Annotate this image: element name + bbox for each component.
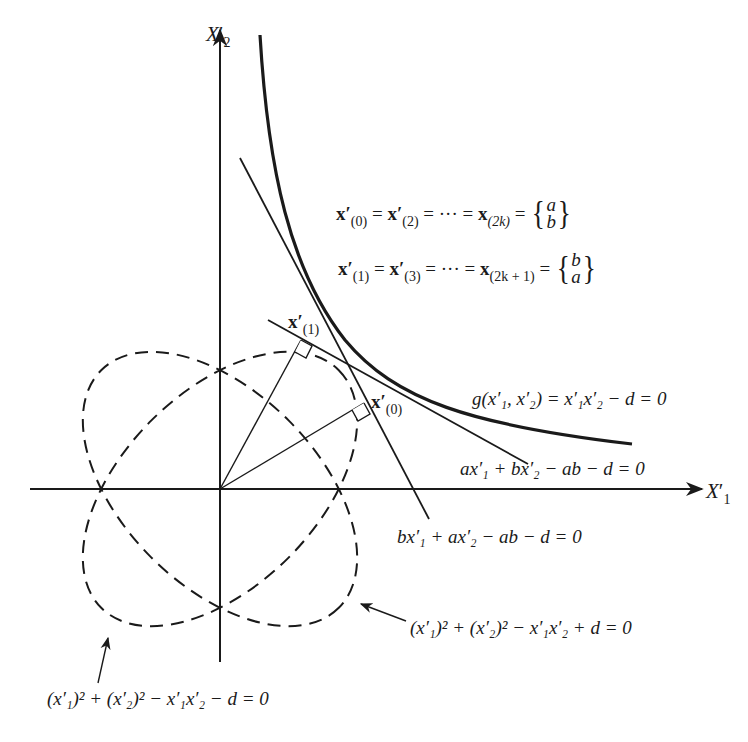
even-sub-3: (2k): [487, 214, 510, 229]
even-term-1: x: [336, 203, 346, 224]
odd-term-1: x: [338, 258, 348, 279]
odd-dots: = ··· =: [425, 258, 475, 279]
even-term-2: x: [387, 203, 397, 224]
x2-axis-label: X′2: [206, 24, 230, 45]
ray-to-x0: [220, 403, 364, 489]
even-equals: =: [515, 203, 526, 224]
x1-axis-label-sub: 1: [723, 492, 730, 507]
point-x0-sub: (0): [386, 402, 402, 417]
odd-sub-3: (2k + 1): [489, 269, 534, 284]
leader-arrow-ellipse-plus: [361, 604, 406, 621]
even-dots: = ··· =: [423, 203, 473, 224]
point-x1-sub: (1): [303, 322, 319, 337]
point-label-x0: x′(0): [371, 392, 402, 411]
constraint-hyperbola: [260, 35, 632, 444]
odd-vector-bottom: a: [571, 268, 581, 285]
tangent-a-equation: ax′₁ + bx′₂ − ab − d = 0: [460, 459, 645, 478]
ellipse-plus-equation: (x′₁)² + (x′₂)² − x′₁x′₂ + d = 0: [410, 618, 632, 637]
odd-sub-1: (1): [353, 269, 369, 284]
ray-to-x1: [220, 340, 301, 489]
right-angle-marker-x0: [352, 403, 370, 421]
even-sub-2: (2): [402, 214, 418, 229]
tangent-b-equation: bx′₁ + ax′₂ − ab − d = 0: [397, 527, 582, 546]
odd-term-2: x: [389, 258, 399, 279]
even-iterates-equation: x′(0) = x′(2) = ··· = x(2k) = {ab}: [336, 199, 572, 233]
x2-axis-label-base: X: [206, 22, 219, 46]
odd-vector: ba: [571, 251, 581, 285]
odd-sub-2: (3): [404, 269, 420, 284]
diagram-canvas: [0, 0, 748, 742]
x2-axis-label-sub: 2: [223, 35, 230, 50]
x1-axis-label-base: X: [706, 479, 719, 503]
ellipse-minus-equation: (x′₁)² + (x′₂)² − x′₁x′₂ − d = 0: [47, 689, 269, 708]
even-sub-1: (0): [351, 214, 367, 229]
leader-arrow-ellipse-minus: [98, 638, 108, 683]
even-vector-bottom: b: [547, 213, 557, 230]
constraint-equation: g(x′₁, x′₂) = x′₁x′₂ − d = 0: [472, 389, 666, 408]
x1-axis-label: X′1: [706, 481, 730, 502]
point-x1-base: x: [288, 311, 298, 332]
point-label-x1: x′(1): [288, 312, 319, 331]
point-x0-base: x: [371, 391, 381, 412]
even-vector: ab: [547, 196, 557, 230]
odd-iterates-equation: x′(1) = x′(3) = ··· = x(2k + 1) = {ba}: [338, 254, 597, 288]
odd-equals: =: [539, 258, 550, 279]
